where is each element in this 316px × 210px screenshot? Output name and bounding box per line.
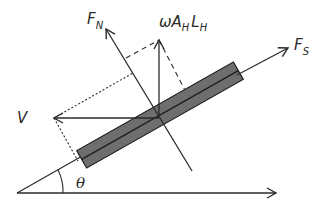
- shear-force-arrow: [237, 48, 288, 75]
- angle-arc: [58, 170, 63, 193]
- velocity-label: V: [17, 109, 29, 127]
- dashed-normal-component-line: [126, 40, 159, 58]
- angle-theta-label: θ: [76, 174, 85, 192]
- normal-force-label: FN: [87, 10, 104, 31]
- incline-line: [17, 155, 84, 193]
- vertical-force-label: ωAHLH: [159, 13, 208, 33]
- dotted-velocity-upper-line: [54, 73, 133, 118]
- rod-centerline: [82, 71, 239, 160]
- force-diagram: FN ωAHLH FS V θ: [0, 0, 316, 210]
- shear-force-label: FS: [294, 36, 310, 57]
- dotted-velocity-lower-line: [54, 118, 78, 161]
- rod: [77, 62, 244, 168]
